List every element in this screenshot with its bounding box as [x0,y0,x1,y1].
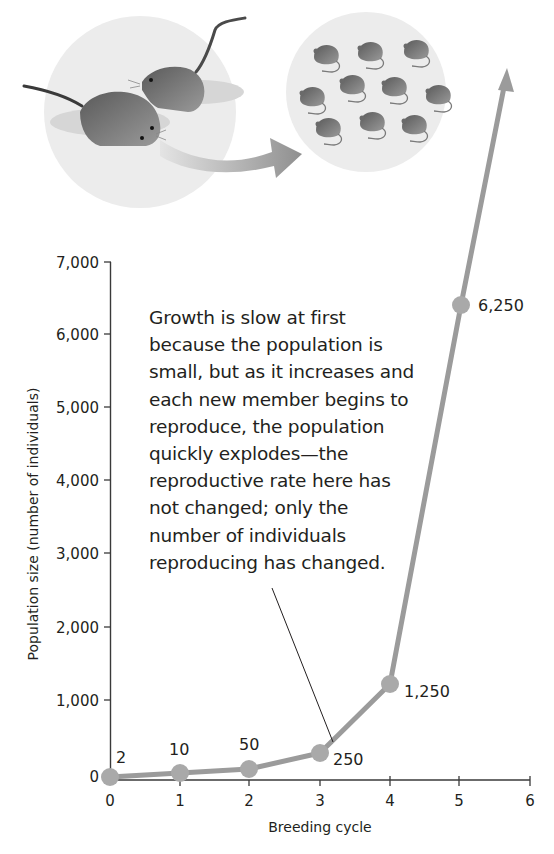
annotation-leader-line [272,588,333,742]
data-label: 50 [239,735,259,754]
annotation-text: Growth is slow at first because the popu… [149,304,389,576]
x-tick-label: 4 [385,792,395,810]
y-tick-label: 7,000 [56,254,99,272]
data-point [311,744,329,762]
x-axis-title: Breeding cycle [268,819,371,835]
x-tick-label: 2 [244,792,254,810]
annotation-line: reproducing has changed. [149,549,389,576]
annotation-line: not changed; only the [149,494,389,521]
y-tick-label: 0 [89,768,99,786]
data-point [171,764,189,782]
data-label: 250 [333,750,364,769]
annotation-line: reproductive rate here has [149,467,389,494]
data-label: 10 [169,740,189,759]
data-label: 6,250 [478,296,524,315]
y-axis-title: Population size (number of individuals) [25,388,41,661]
annotation-line: quickly explodes—the [149,440,389,467]
data-label: 2 [116,748,126,767]
x-tick-label: 0 [105,792,115,810]
x-tick-label: 5 [454,792,464,810]
x-tick-label: 3 [315,792,325,810]
annotation-line: each new member begins to [149,386,389,413]
y-tick-label: 5,000 [56,399,99,417]
arrow-head-icon [498,68,514,92]
data-point [240,760,258,778]
data-label: 1,250 [404,682,450,701]
y-tick-label: 3,000 [56,545,99,563]
y-tick-label: 6,000 [56,326,99,344]
x-ticks [180,776,530,786]
annotation-line: Growth is slow at first [149,304,389,331]
data-point [101,768,119,786]
data-point [381,675,399,693]
y-tick-label: 1,000 [56,692,99,710]
x-tick-label: 6 [525,792,535,810]
data-point [452,296,470,314]
y-axis: 7,000 6,000 5,000 4,000 3,000 2,000 1,00… [25,254,111,786]
annotation-line: because the population is [149,331,389,358]
annotation-line: number of individuals [149,522,389,549]
x-axis: 0 1 2 3 4 5 6 Breeding cycle [105,776,535,835]
y-tick-label: 2,000 [56,619,99,637]
annotation-line: small, but as it increases and [149,358,389,385]
illustration [24,12,451,208]
y-tick-label: 4,000 [56,472,99,490]
annotation-line: reproduce, the population [149,413,389,440]
x-tick-label: 1 [175,792,185,810]
